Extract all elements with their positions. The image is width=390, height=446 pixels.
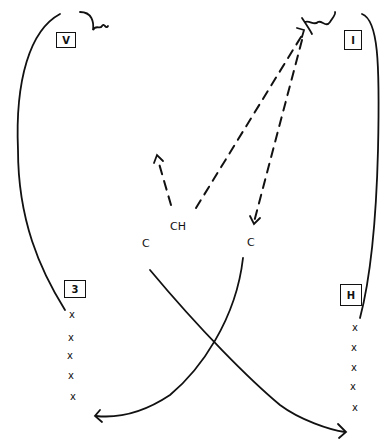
x-mark-right: x [352, 322, 358, 333]
x-mark-left: x [68, 370, 74, 381]
x-mark-left: x [70, 391, 76, 402]
x-mark-left: x [68, 332, 74, 343]
atom-c-right: C [247, 237, 255, 248]
dashed-bond-ch-up [158, 160, 171, 205]
x-mark-right: x [351, 342, 357, 353]
atom-ch-center: CH [170, 221, 186, 232]
top-right-squiggle [302, 12, 335, 34]
box-top-right: I [344, 30, 362, 50]
left-loop-curve [18, 14, 65, 310]
x-mark-left: x [69, 309, 75, 320]
box-bottom-right: H [340, 284, 362, 306]
box-top-left: V [56, 32, 76, 48]
arrowhead-top [297, 28, 304, 37]
box-bottom-left: 3 [64, 280, 86, 298]
diagram-canvas [0, 0, 390, 446]
atom-c-left: C [142, 238, 150, 249]
curve-left-c-to-bottom-right [150, 270, 345, 432]
x-mark-right: x [352, 402, 358, 413]
x-mark-right: x [351, 362, 357, 373]
curve-right-c-to-bottom-left [96, 258, 243, 417]
x-mark-right: x [350, 381, 356, 392]
dashed-bond-top-to-right-c [254, 40, 302, 222]
arrowhead-up [154, 155, 163, 163]
top-left-squiggle [80, 12, 108, 30]
dashed-bond-ch-to-top [196, 32, 304, 208]
right-loop-curve [360, 14, 379, 318]
x-mark-left: x [67, 350, 73, 361]
